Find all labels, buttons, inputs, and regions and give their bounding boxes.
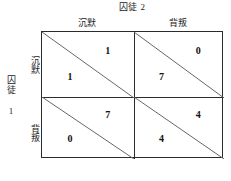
payoff-matrix-diagram: 囚徒 2 沉默 背叛 囚徒 1 沉默 背叛 1 1 0 7 7 0: [0, 0, 231, 181]
cell-payoff-row: 7: [156, 72, 168, 82]
cell-payoff-row: 1: [64, 72, 76, 82]
column-header-betray: 背叛: [133, 17, 223, 30]
cell-payoff-column: 0: [192, 46, 204, 56]
cell-payoff-column: 7: [102, 110, 114, 120]
cell-payoff-column: 4: [192, 110, 204, 120]
cell-betray-betray: 4 4: [134, 97, 224, 159]
cell-silence-silence: 1 1: [42, 32, 134, 98]
cell-silence-betray: 0 7: [134, 32, 224, 98]
column-player-title: 囚徒 2: [41, 1, 223, 14]
row-player-title: 囚徒 1: [2, 72, 16, 120]
cell-payoff-row: 4: [156, 134, 168, 144]
diagonal-divider-icon: [42, 97, 134, 159]
diagonal-divider-icon: [134, 32, 224, 98]
diagonal-divider-icon: [42, 32, 134, 98]
row-header-silence: 沉默: [26, 52, 40, 78]
column-header-silence: 沉默: [41, 17, 133, 30]
matrix-grid: 1 1 0 7 7 0 4 4: [41, 31, 223, 158]
row-header-betray: 背叛: [26, 120, 40, 146]
diagonal-divider-icon: [134, 97, 224, 159]
cell-betray-silence: 7 0: [42, 97, 134, 159]
cell-payoff-row: 0: [64, 134, 76, 144]
cell-payoff-column: 1: [102, 46, 114, 56]
